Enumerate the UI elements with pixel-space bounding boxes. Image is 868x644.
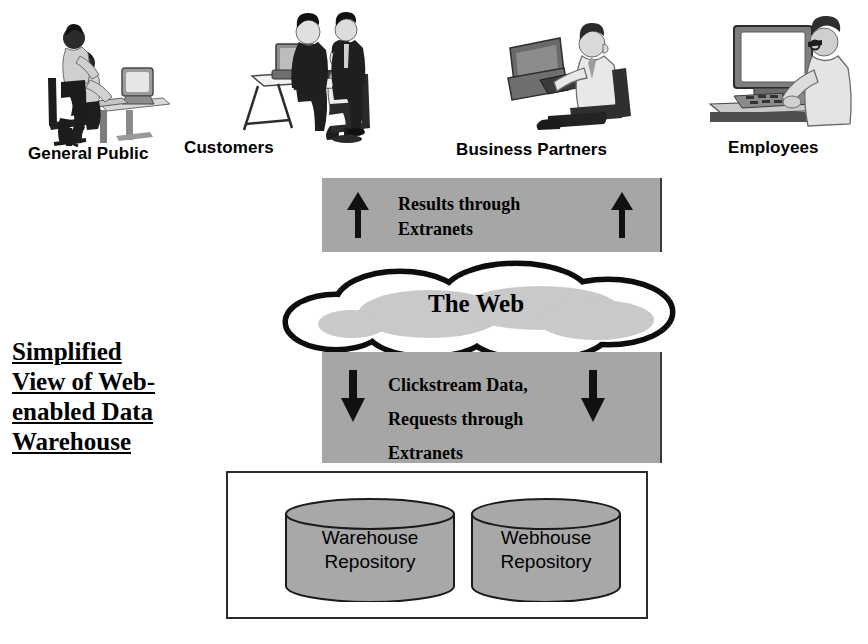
actor-general-public: General Public	[30, 18, 180, 148]
diagram-canvas: General Public	[0, 0, 868, 644]
page-title: Simplified View of Web- enabled Data War…	[12, 337, 212, 457]
man-typing-at-computer-icon	[492, 10, 642, 138]
bar-line-2: Extranets	[398, 217, 520, 242]
cyl-line-2: Repository	[470, 550, 622, 574]
down-arrow-left-icon	[336, 368, 370, 424]
actor-customers: Customers	[234, 8, 394, 143]
down-arrow-right-icon	[576, 368, 610, 424]
webhouse-repository-cylinder: Webhouse Repository	[470, 498, 622, 602]
man-at-monitor-and-keyboard-icon	[700, 12, 860, 140]
up-arrow-right-icon	[608, 190, 636, 240]
actor-employees: Employees	[700, 12, 860, 140]
bar-line-2: Requests through	[388, 402, 528, 436]
title-line-2: View of Web-	[12, 367, 212, 397]
up-arrow-left-icon	[344, 190, 372, 240]
actor-label-customers: Customers	[184, 138, 274, 158]
actor-label-general-public: General Public	[28, 144, 148, 164]
warehouse-repository-label: Warehouse Repository	[284, 526, 456, 574]
webhouse-repository-label: Webhouse Repository	[470, 526, 622, 574]
bar-line-3: Extranets	[388, 436, 528, 470]
warehouse-repository-cylinder: Warehouse Repository	[284, 498, 456, 602]
cyl-line-1: Webhouse	[470, 526, 622, 550]
actor-business-partners: Business Partners	[492, 10, 642, 138]
results-through-extranets-text: Results through Extranets	[398, 192, 520, 242]
title-line-3: enabled Data	[12, 397, 212, 427]
three-people-at-computer-desk-icon	[234, 8, 394, 143]
clickstream-requests-bar: Clickstream Data, Requests through Extra…	[322, 352, 662, 463]
bar-line-1: Results through	[398, 192, 520, 217]
repository-container: Warehouse Repository Webhouse Repository	[226, 471, 648, 619]
title-line-4: Warehouse	[12, 427, 212, 457]
clickstream-requests-text: Clickstream Data, Requests through Extra…	[388, 368, 528, 470]
cyl-line-2: Repository	[284, 550, 456, 574]
actor-label-employees: Employees	[728, 138, 819, 158]
two-people-at-desktop-computer-icon	[30, 18, 180, 148]
bar-line-1: Clickstream Data,	[388, 368, 528, 402]
web-cloud: The Web	[278, 258, 708, 362]
actor-label-business-partners: Business Partners	[456, 140, 607, 160]
cyl-line-1: Warehouse	[284, 526, 456, 550]
results-through-extranets-bar: Results through Extranets	[322, 178, 662, 252]
cloud-label-the-web: The Web	[428, 290, 524, 318]
title-line-1: Simplified	[12, 337, 212, 367]
